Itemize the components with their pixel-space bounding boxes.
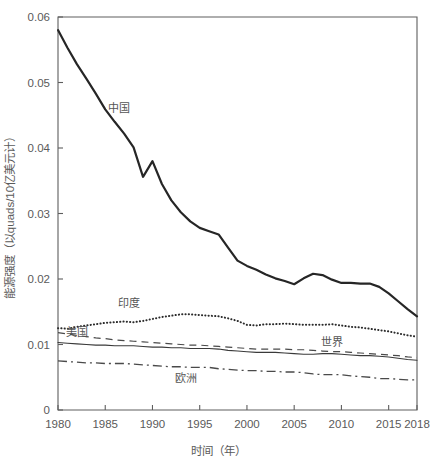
energy-intensity-line-chart: 00.010.020.030.040.050.06 19801985199019… <box>0 0 436 466</box>
series-line <box>58 314 417 336</box>
x-tick-label: 2015 <box>376 418 402 430</box>
series-line <box>58 30 417 316</box>
data-series-group <box>58 30 417 380</box>
y-tick-label: 0.03 <box>28 208 50 220</box>
series-line <box>58 343 417 361</box>
series-annotation: 中国 <box>108 102 130 114</box>
y-tick-label: 0.02 <box>28 273 50 285</box>
x-tick-label: 2018 <box>404 418 430 430</box>
x-tick-label: 1990 <box>140 418 166 430</box>
x-axis-title: 时间（年） <box>191 444 246 457</box>
y-tick-label: 0.05 <box>28 77 50 89</box>
x-tick-label: 1980 <box>45 418 71 430</box>
x-tick-label: 2010 <box>329 418 355 430</box>
series-annotation: 印度 <box>118 296 140 309</box>
series-annotation: 美国 <box>66 326 88 338</box>
x-axis: 198019851990199520002005201020152018 <box>45 405 430 430</box>
y-axis-title: 能源强度（以quads/10亿美元计） <box>3 131 16 299</box>
series-annotation: 欧洲 <box>175 372 197 384</box>
x-tick-label: 1995 <box>187 418 213 430</box>
y-tick-label: 0 <box>44 404 50 416</box>
y-tick-label: 0.04 <box>28 142 51 154</box>
x-tick-label: 2005 <box>281 418 307 430</box>
series-line <box>58 361 417 380</box>
y-tick-label: 0.06 <box>28 11 50 23</box>
y-tick-label: 0.01 <box>28 339 50 351</box>
x-tick-label: 2000 <box>234 418 260 430</box>
series-annotations: 中国印度美国世界欧洲 <box>66 102 343 384</box>
chart-canvas: 00.010.020.030.040.050.06 19801985199019… <box>0 0 436 466</box>
series-annotation: 世界 <box>321 336 343 348</box>
x-tick-label: 1985 <box>92 418 118 430</box>
